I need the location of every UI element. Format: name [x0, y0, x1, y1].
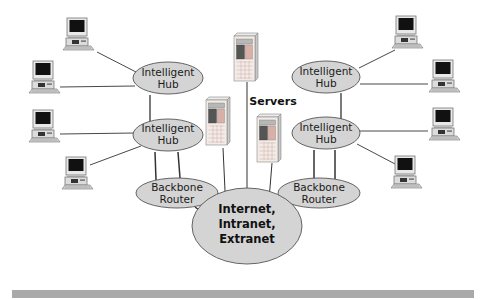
- internet-intranet-extranet-cloud: Internet, Intranet, Extranet: [192, 188, 302, 264]
- computer-icon: [392, 16, 423, 48]
- server-icon: [234, 33, 258, 81]
- router-label: Backbone: [293, 181, 345, 193]
- computer-icon: [29, 110, 60, 142]
- intranet-label: Intranet,: [218, 217, 275, 231]
- hub-label: Intelligent: [142, 66, 195, 78]
- hub-label: Intelligent: [142, 122, 195, 134]
- intelligent-hub-left-bottom: Intelligent Hub: [133, 119, 203, 151]
- intelligent-hub-right-top: Intelligent Hub: [292, 61, 360, 93]
- hub-label: Intelligent: [300, 65, 353, 77]
- extranet-label: Extranet: [219, 232, 275, 246]
- computer-icon: [29, 61, 60, 93]
- computer-icon: [429, 108, 460, 140]
- router-label: Backbone: [151, 181, 203, 193]
- intelligent-hub-left-top: Intelligent Hub: [133, 62, 203, 94]
- server-icon: [206, 97, 230, 145]
- hub-label: Intelligent: [300, 121, 353, 133]
- computer-icon: [429, 60, 460, 92]
- hub-label: Hub: [157, 134, 179, 146]
- servers-label: Servers: [249, 95, 297, 108]
- hub-label: Hub: [157, 78, 179, 90]
- computer-icon: [391, 156, 422, 188]
- computer-icon: [63, 18, 94, 50]
- network-diagram: Servers Intelligent Hub Intelligent Hub …: [0, 0, 486, 300]
- router-label: Router: [160, 193, 195, 205]
- hub-label: Hub: [315, 77, 337, 89]
- footer-bar: [12, 290, 474, 298]
- internet-label: Internet,: [218, 202, 275, 216]
- hub-label: Hub: [315, 133, 337, 145]
- server-icon: [257, 114, 281, 162]
- computer-icon: [62, 157, 93, 189]
- router-label: Router: [302, 193, 337, 205]
- intelligent-hub-right-bottom: Intelligent Hub: [292, 117, 360, 149]
